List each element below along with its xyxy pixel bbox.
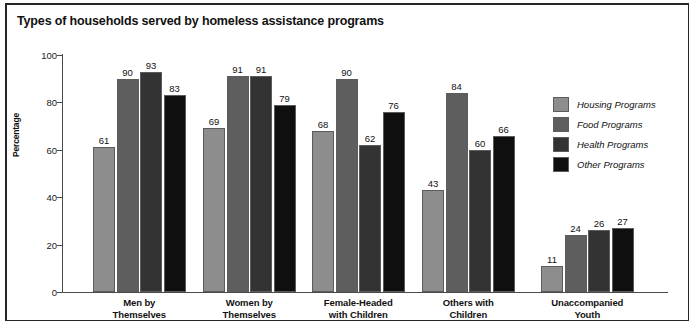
bar[interactable]: 91 (227, 76, 249, 292)
x-axis-category-label: Female-Headedwith Children (324, 297, 393, 320)
bar[interactable]: 83 (164, 95, 186, 292)
legend-swatch (553, 137, 569, 152)
bar[interactable]: 26 (588, 230, 610, 292)
y-axis-tick-label: 40 (31, 192, 57, 203)
bar-value-label: 93 (146, 60, 157, 71)
bar-group: 69919179 (203, 55, 296, 292)
legend-label: Other Programs (577, 159, 645, 170)
y-axis-tick-label: 100 (31, 50, 57, 61)
bar-value-label: 62 (365, 133, 376, 144)
legend-item[interactable]: Other Programs (553, 155, 656, 174)
y-axis-tick (57, 55, 62, 56)
bar-value-label: 11 (547, 254, 557, 265)
bar-value-label: 90 (341, 67, 352, 78)
bar[interactable]: 90 (117, 79, 139, 292)
bar[interactable]: 66 (493, 136, 515, 292)
bar-group: 43846066 (422, 55, 515, 292)
bar[interactable]: 91 (250, 76, 272, 292)
y-axis-tick (57, 150, 62, 151)
x-axis-line (62, 292, 668, 293)
bar-value-label: 24 (570, 223, 581, 234)
bar[interactable]: 69 (203, 128, 225, 292)
chart-title: Types of households served by homeless a… (17, 14, 384, 28)
bar[interactable]: 24 (565, 235, 587, 292)
bar-value-label: 60 (475, 138, 486, 149)
bar-group: 61909383 (93, 55, 186, 292)
bar[interactable]: 93 (140, 72, 162, 292)
legend-swatch (553, 157, 569, 172)
x-axis-category-label: Others withChildren (443, 297, 494, 320)
y-axis-tick (57, 292, 62, 293)
bar-value-label: 90 (122, 67, 133, 78)
bar[interactable]: 62 (359, 145, 381, 292)
legend-swatch (553, 97, 569, 112)
bar-value-label: 91 (256, 64, 267, 75)
y-axis-tick-label: 20 (31, 239, 57, 250)
chart-figure: Types of households served by homeless a… (0, 0, 692, 323)
bar[interactable]: 43 (422, 190, 444, 292)
bar[interactable]: 68 (312, 131, 334, 292)
legend-label: Food Programs (577, 119, 642, 130)
bar-value-label: 61 (99, 135, 110, 146)
bar[interactable]: 90 (336, 79, 358, 292)
y-axis-tick-label: 0 (31, 287, 57, 298)
bar[interactable]: 79 (274, 105, 296, 292)
bar-value-label: 84 (451, 81, 462, 92)
x-axis-category-label: UnaccompaniedYouth (551, 297, 623, 320)
bar-value-label: 69 (209, 116, 220, 127)
bar-value-label: 26 (594, 218, 605, 229)
bar[interactable]: 84 (446, 93, 468, 292)
chart-legend: Housing ProgramsFood ProgramsHealth Prog… (553, 95, 656, 175)
bar-value-label: 79 (279, 93, 290, 104)
bar[interactable]: 61 (93, 147, 115, 292)
y-axis-tick (57, 102, 62, 103)
bar-value-label: 91 (232, 64, 243, 75)
legend-swatch (553, 117, 569, 132)
bar-group: 68906276 (312, 55, 405, 292)
legend-item[interactable]: Health Programs (553, 135, 656, 154)
y-axis-tick-label: 60 (31, 144, 57, 155)
x-axis-category-label: Men byThemselves (113, 297, 166, 320)
bar-value-label: 43 (428, 178, 439, 189)
bar-value-label: 68 (318, 119, 329, 130)
bar-value-label: 66 (498, 124, 509, 135)
legend-item[interactable]: Food Programs (553, 115, 656, 134)
bar[interactable]: 60 (469, 150, 491, 292)
bar-value-label: 83 (169, 83, 180, 94)
bar-value-label: 27 (617, 216, 628, 227)
bar[interactable]: 76 (383, 112, 405, 292)
legend-item[interactable]: Housing Programs (553, 95, 656, 114)
bar[interactable]: 27 (612, 228, 634, 292)
bar-value-label: 76 (388, 100, 399, 111)
y-axis-tick (57, 197, 62, 198)
legend-label: Health Programs (577, 139, 648, 150)
y-axis-tick-label: 80 (31, 97, 57, 108)
x-axis-category-label: Women byThemselves (223, 297, 276, 320)
legend-label: Housing Programs (577, 99, 656, 110)
y-axis-tick (57, 245, 62, 246)
y-axis-label: Percentage (11, 113, 21, 157)
bar[interactable]: 11 (541, 266, 563, 292)
